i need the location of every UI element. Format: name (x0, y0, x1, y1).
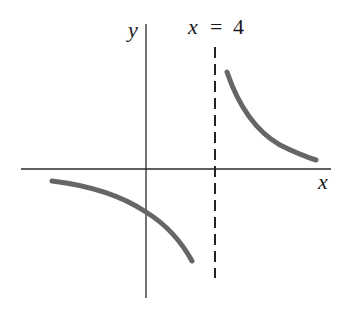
right-branch-curve (227, 72, 316, 160)
left-branch-curve (52, 181, 192, 261)
function-graph: y x x = 4 (0, 0, 349, 322)
asymptote-label-var: x (187, 14, 198, 39)
asymptote-label-val: 4 (233, 14, 244, 39)
asymptote-label-eq: = (210, 14, 222, 39)
x-axis-label: x (317, 169, 328, 194)
y-axis-label: y (126, 17, 138, 42)
asymptote-label: x = 4 (187, 14, 244, 39)
